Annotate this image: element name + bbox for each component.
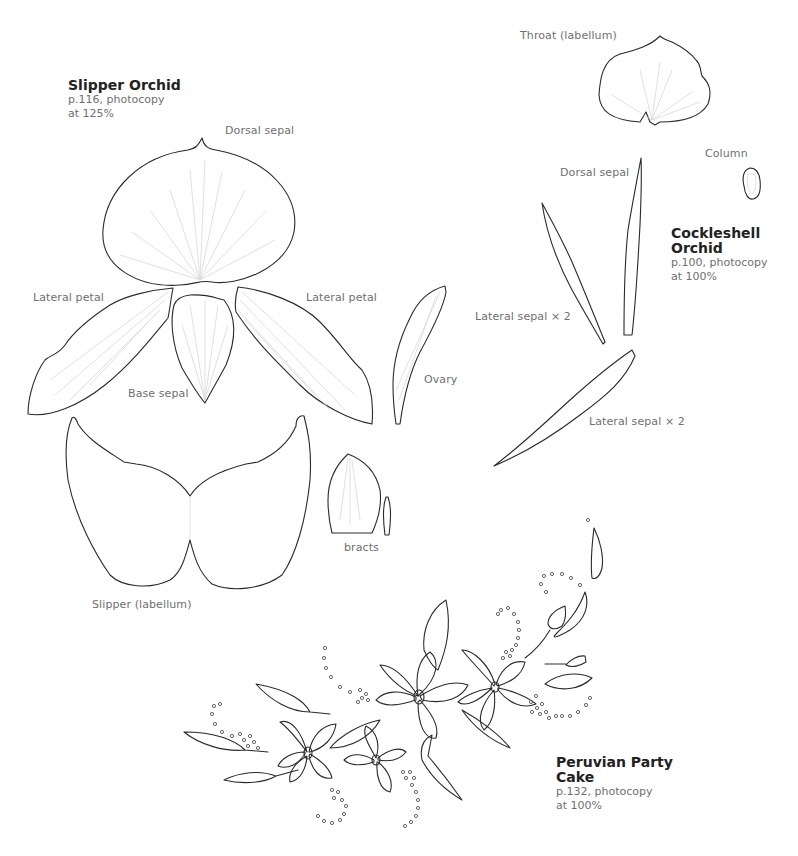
cockleshell-throat xyxy=(599,36,710,125)
cockleshell-lateral-sepal-lower xyxy=(494,350,635,466)
slipper-orchid-bract-large xyxy=(328,454,381,533)
cockleshell-column xyxy=(743,168,760,199)
slipper-orchid-scale: at 125% xyxy=(68,107,181,121)
label-lateral-sepal-upper: Lateral sepal × 2 xyxy=(475,310,571,323)
cockleshell-orchid-title-line2: Orchid xyxy=(671,241,767,256)
label-lateral-petal-right: Lateral petal xyxy=(306,291,377,304)
label-slipper: Slipper (labellum) xyxy=(92,598,192,611)
label-base-sepal: Base sepal xyxy=(128,387,189,400)
label-lateral-petal-left: Lateral petal xyxy=(33,291,104,304)
cockleshell-orchid-page-ref: p.100, photocopy xyxy=(671,256,767,270)
slipper-orchid-bract-small xyxy=(384,497,391,535)
slipper-orchid-title: Slipper Orchid xyxy=(68,78,181,93)
cake-title-line1: Peruvian Party xyxy=(556,755,673,770)
slipper-orchid-lateral-petal-right xyxy=(235,287,372,424)
label-throat: Throat (labellum) xyxy=(520,29,617,42)
label-cockleshell-dorsal-sepal: Dorsal sepal xyxy=(560,166,629,179)
cockleshell-orchid-title-line1: Cockleshell xyxy=(671,226,767,241)
cake-title-line2: Cake xyxy=(556,770,673,785)
label-lateral-sepal-lower: Lateral sepal × 2 xyxy=(589,415,685,428)
cockleshell-orchid-title-block: Cockleshell Orchid p.100, photocopy at 1… xyxy=(671,226,767,284)
template-artwork xyxy=(0,0,798,856)
label-bracts: bracts xyxy=(344,541,379,554)
cockleshell-dorsal-sepal xyxy=(624,158,641,335)
label-column: Column xyxy=(705,147,748,160)
slipper-orchid-ovary xyxy=(393,286,446,424)
cake-scale: at 100% xyxy=(556,799,673,813)
cake-dot-scrolls xyxy=(210,518,591,827)
slipper-orchid-slipper xyxy=(66,416,311,589)
slipper-orchid-title-block: Slipper Orchid p.116, photocopy at 125% xyxy=(68,78,181,121)
cake-flower-spray xyxy=(184,528,603,800)
cake-title-block: Peruvian Party Cake p.132, photocopy at … xyxy=(556,755,673,813)
cake-page-ref: p.132, photocopy xyxy=(556,785,673,799)
cockleshell-orchid-scale: at 100% xyxy=(671,270,767,284)
label-dorsal-sepal: Dorsal sepal xyxy=(225,124,294,137)
slipper-orchid-page-ref: p.116, photocopy xyxy=(68,93,181,107)
label-ovary: Ovary xyxy=(424,373,457,386)
slipper-orchid-dorsal-sepal xyxy=(103,138,295,285)
